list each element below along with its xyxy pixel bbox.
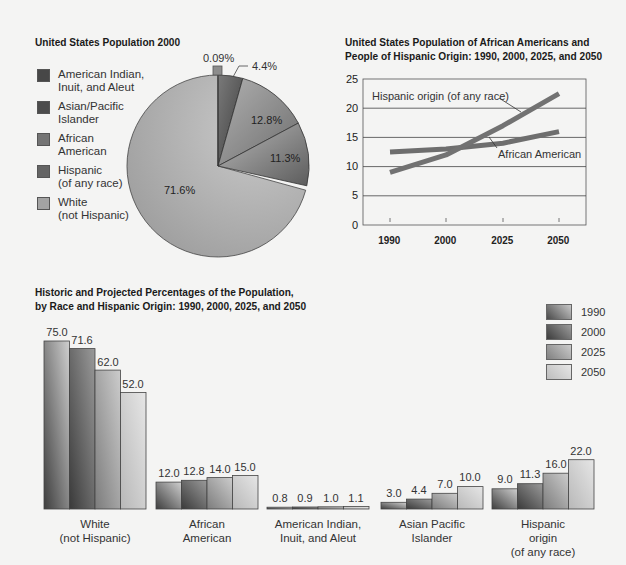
legend-label: 1990	[581, 306, 605, 318]
bar-value: 71.6	[69, 334, 95, 347]
category-label-african-american: AfricanAmerican	[147, 517, 267, 545]
bar-value: 3.0	[381, 487, 407, 500]
bar-value: 0.9	[292, 492, 318, 505]
bar-value: 62.0	[95, 356, 121, 369]
bar-value: 7.0	[432, 478, 458, 491]
legend-label: 2025	[581, 346, 605, 358]
bar-value: 14.0	[207, 463, 233, 476]
category-label-asian: Asian PacificIslander	[372, 517, 492, 545]
bar-value: 10.0	[457, 471, 483, 484]
bar-legend-item: 1990	[546, 304, 605, 320]
category-label-white: White(not Hispanic)	[35, 517, 155, 545]
bar-value: 11.3	[517, 468, 543, 481]
legend-swatch	[546, 324, 572, 340]
bar-legend-item: 2025	[546, 344, 605, 360]
legend-label: 2050	[581, 366, 605, 378]
legend-label: 2000	[581, 326, 605, 338]
bar-value: 1.1	[343, 492, 369, 505]
legend-swatch	[546, 344, 572, 360]
category-label-hispanic: Hispanicorigin(of any race)	[483, 517, 603, 559]
bar-value: 12.8	[181, 465, 207, 478]
legend-swatch	[546, 364, 572, 380]
bar-value: 0.8	[267, 492, 293, 505]
bar-value: 75.0	[44, 326, 70, 339]
bar-legend-item: 2050	[546, 364, 605, 380]
bar-value: 12.0	[156, 467, 182, 480]
bar-value: 1.0	[318, 492, 344, 505]
bar-value: 16.0	[543, 458, 569, 471]
bar-value: 15.0	[232, 461, 258, 474]
bar-value: 4.4	[406, 484, 432, 497]
bar-value: 22.0	[568, 445, 594, 458]
legend-swatch	[546, 304, 572, 320]
bar-value: 9.0	[492, 473, 518, 486]
bar-legend-item: 2000	[546, 324, 605, 340]
category-label-american-indian: American Indian,Inuit, and Aleut	[258, 517, 378, 545]
bar-value: 52.0	[120, 378, 146, 391]
